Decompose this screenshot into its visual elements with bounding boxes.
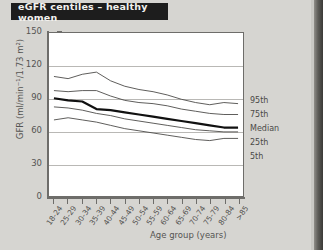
legend-item-median: Median bbox=[250, 125, 298, 133]
page-edge-shadow bbox=[314, 0, 323, 250]
y-axis-labels: 1501209060300 bbox=[14, 31, 42, 198]
y-axis-tick-label: 30 bbox=[16, 158, 42, 168]
centile-line-median bbox=[54, 98, 238, 127]
legend-item-95th: 95th bbox=[250, 97, 298, 105]
legend-item-5th: 5th bbox=[250, 153, 298, 161]
y-axis-tick-label: 120 bbox=[16, 59, 42, 69]
centile-line-5th bbox=[54, 118, 238, 141]
centile-line-75th bbox=[54, 91, 238, 115]
centile-line-95th bbox=[54, 72, 238, 105]
chart-page: eGFR centiles – healthy women GFR (ml/mi… bbox=[0, 0, 323, 250]
centile-curves bbox=[49, 33, 243, 196]
y-axis-tick-label: 60 bbox=[16, 125, 42, 135]
x-axis-tick-label: >85 bbox=[234, 204, 250, 222]
plot-area bbox=[48, 32, 244, 197]
chart-title-banner: eGFR centiles – healthy women bbox=[11, 3, 168, 20]
chart-legend: 95th75thMedian25th5th bbox=[250, 97, 298, 167]
x-axis-title: Age group (years) bbox=[150, 230, 227, 240]
y-axis-tick-label: 0 bbox=[16, 191, 42, 201]
y-axis-tick-label: 150 bbox=[16, 26, 42, 36]
page-title: eGFR centiles – healthy women bbox=[18, 1, 168, 23]
legend-item-75th: 75th bbox=[250, 111, 298, 119]
y-axis-tick-label: 90 bbox=[16, 92, 42, 102]
legend-item-25th: 25th bbox=[250, 139, 298, 147]
